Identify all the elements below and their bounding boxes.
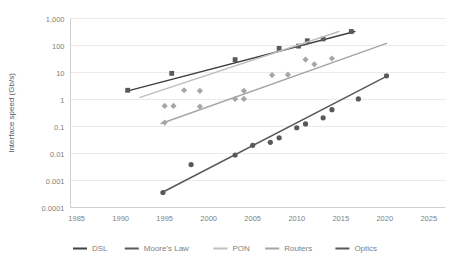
data-point-marker bbox=[303, 121, 308, 126]
data-point-marker bbox=[384, 73, 389, 78]
data-point-marker bbox=[250, 143, 255, 148]
data-point-marker bbox=[162, 103, 168, 109]
data-point-marker bbox=[160, 190, 165, 195]
x-tick-label: 2000 bbox=[200, 214, 217, 223]
trendline bbox=[140, 32, 339, 98]
data-point-marker bbox=[321, 115, 326, 120]
legend-label: DSL bbox=[92, 244, 108, 253]
series-pon bbox=[140, 32, 339, 98]
gridlines bbox=[71, 19, 446, 208]
data-point-marker bbox=[169, 71, 174, 76]
data-point-marker bbox=[241, 96, 247, 102]
data-point-marker bbox=[233, 57, 238, 62]
y-tick-label: 0.1 bbox=[54, 123, 64, 132]
legend-label: Routers bbox=[284, 244, 312, 253]
trendline bbox=[161, 43, 386, 123]
y-tick-label: 100 bbox=[52, 42, 65, 51]
data-point-marker bbox=[268, 140, 273, 145]
series-optics bbox=[160, 73, 389, 195]
x-tick-label: 2015 bbox=[332, 214, 349, 223]
chart-legend: DSLMoore's LawPONRoutersOptics bbox=[73, 244, 377, 253]
data-point-marker bbox=[188, 162, 193, 167]
trendline bbox=[126, 32, 355, 92]
x-tick-label: 1990 bbox=[112, 214, 129, 223]
legend-item-moore-s-law[interactable]: Moore's Law bbox=[125, 244, 189, 253]
data-series-layer bbox=[125, 29, 389, 195]
data-point-marker bbox=[233, 152, 238, 157]
y-axis-tick-labels: 1,0001001010.10.010.0010.0001 bbox=[42, 15, 65, 213]
data-point-marker bbox=[329, 107, 334, 112]
series-routers bbox=[161, 43, 386, 125]
data-point-marker bbox=[302, 57, 308, 63]
y-axis-title-text: Interface speed (Gb/s) bbox=[7, 73, 16, 153]
legend-item-dsl[interactable]: DSL bbox=[73, 244, 108, 253]
axis-lines bbox=[71, 19, 446, 208]
trendline bbox=[162, 76, 387, 193]
y-tick-label: 10 bbox=[56, 69, 64, 78]
interface-speed-log-chart: 1,0001001010.10.010.0010.0001 1985199019… bbox=[0, 0, 462, 269]
data-point-marker bbox=[349, 29, 354, 34]
legend-label: Optics bbox=[354, 244, 377, 253]
data-point-marker bbox=[356, 96, 361, 101]
x-tick-label: 2005 bbox=[244, 214, 261, 223]
chart-container: 1,0001001010.10.010.0010.0001 1985199019… bbox=[0, 0, 462, 269]
data-point-marker bbox=[162, 119, 168, 125]
y-tick-label: 0.01 bbox=[50, 150, 65, 159]
x-tick-label: 1995 bbox=[156, 214, 173, 223]
y-tick-label: 0.001 bbox=[46, 177, 65, 186]
y-tick-label: 1 bbox=[60, 96, 64, 105]
x-tick-label: 2010 bbox=[288, 214, 305, 223]
y-tick-label: 0.0001 bbox=[42, 204, 65, 213]
x-tick-label: 2025 bbox=[420, 214, 437, 223]
legend-label: PON bbox=[232, 244, 250, 253]
data-point-marker bbox=[311, 61, 317, 67]
legend-label: Moore's Law bbox=[144, 244, 189, 253]
data-point-marker bbox=[294, 125, 299, 130]
data-point-marker bbox=[125, 88, 130, 93]
y-tick-label: 1,000 bbox=[46, 15, 65, 24]
y-axis-title: Interface speed (Gb/s) bbox=[7, 73, 16, 153]
legend-item-optics[interactable]: Optics bbox=[335, 244, 377, 253]
x-axis-tick-labels: 198519901995200020052010201520202025 bbox=[68, 214, 437, 223]
legend-item-routers[interactable]: Routers bbox=[265, 244, 312, 253]
data-point-marker bbox=[277, 135, 282, 140]
data-point-marker bbox=[269, 72, 275, 78]
series-dsl bbox=[126, 32, 355, 92]
data-point-marker bbox=[329, 55, 335, 61]
legend-item-pon[interactable]: PON bbox=[213, 244, 250, 253]
data-point-marker bbox=[181, 87, 187, 93]
data-point-marker bbox=[197, 88, 203, 94]
x-tick-label: 1985 bbox=[68, 214, 85, 223]
x-tick-label: 2020 bbox=[376, 214, 393, 223]
data-point-marker bbox=[170, 103, 176, 109]
